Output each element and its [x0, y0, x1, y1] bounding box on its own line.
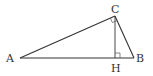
- label-A: A: [5, 52, 15, 65]
- label-B: B: [136, 52, 144, 65]
- triangle-diagram: A B C H: [0, 0, 153, 76]
- label-C: C: [111, 3, 119, 16]
- segment-CB: [115, 16, 134, 58]
- label-H: H: [111, 62, 121, 75]
- segment-AC: [20, 16, 115, 58]
- right-angle-marker-H: [115, 53, 120, 58]
